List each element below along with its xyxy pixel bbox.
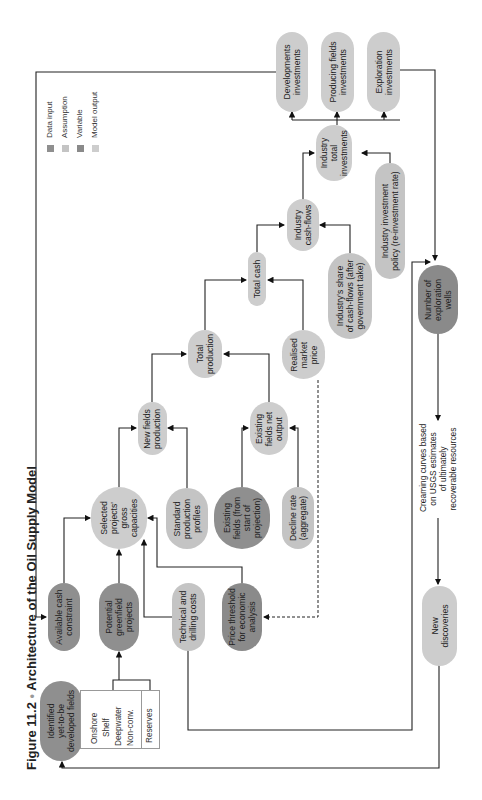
node-industry-investment-policy: Industry investment policy (re-investmen… [375,163,405,279]
legend-swatch-variable [77,145,84,152]
node-total-production: Total production [188,330,222,378]
figure-title-text: Architecture of the Oil Supply Model [24,466,39,691]
figure-title: Figure 11.2 • Architecture of the Oil Su… [24,466,39,770]
node-number-exploration-wells: Number of exploration wells [418,265,458,334]
node-decline-rate: Decline rate (aggregate) [282,487,314,549]
oil-supply-model-diagram: Figure 11.2 • Architecture of the Oil Su… [0,0,482,800]
node-standard-production-profiles: Standard production profiles [166,488,208,549]
field-type-deepwater: Deepwater [114,706,123,746]
legend-label-variable: Variable [75,109,84,138]
node-developments-investments: Developments investments [276,32,308,112]
table-divider [141,691,142,748]
node-industry-share-cash-flows: Industry's share of cash-flows (after go… [328,253,372,339]
node-technical-drilling-costs: Technical and drilling costs [172,583,205,651]
node-potential-greenfield-projects: Potential greenfield projects [99,583,139,651]
field-type-reserves: Reserves [145,708,154,743]
legend-label-data-input: Data input [45,102,54,138]
field-type-non-conv: Non-conv. [126,709,135,746]
node-new-discoveries: New discoveries [422,586,457,666]
node-price-threshold: Price threshold for economic analysis [222,583,262,651]
node-industry-total-investments: Industry total investments [316,125,352,181]
connector-lines [0,0,482,800]
node-existing-fields-net-output: Existing fields net output [250,402,288,455]
field-type-onshore: Onshore [90,713,99,744]
field-type-shelf: Shelf [102,718,111,737]
node-exploration-investments: Exploration investments [367,32,400,112]
field-types-table: Onshore Shelf Deepwater Non-conv. Reserv… [80,690,160,749]
figure-separator: • [24,694,39,699]
legend-label-model-output: Model output [90,92,99,138]
node-existing-fields: Existing fields (from start of projectio… [214,487,270,549]
legend-swatch-data-input [47,145,54,152]
creaming-curves-note: Creaming curves based on USGS estimates … [418,426,458,512]
node-producing-fields-investments: Producing fields investments [321,32,354,112]
node-new-fields-production: New fields production [138,402,167,455]
node-identified-yet-to-be-developed-fields: Identified yet-to-be developed fields [40,681,82,761]
figure-number: Figure 11.2 [24,702,39,770]
node-industry-cash-flows: Industry cash-flows [287,199,319,251]
legend-swatch-model-output [92,145,99,152]
node-selected-projects-gross-capacities: Selected projects' gross capacities [91,487,147,549]
node-available-cash-constraint: Available cash constraint [48,583,80,651]
node-realised-market-price: Realised market price [282,330,325,379]
legend-swatch-assumption [62,145,69,152]
legend-label-assumption: Assumption [60,96,69,138]
node-total-cash: Total cash [248,252,266,306]
